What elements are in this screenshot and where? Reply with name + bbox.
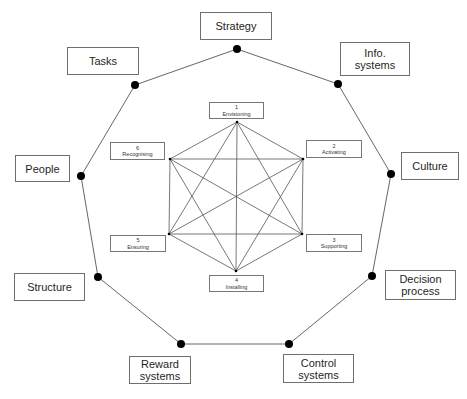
outer-ring-edge [81, 176, 98, 277]
inner-node-dot-icon [168, 233, 171, 236]
inner-role-edge [237, 122, 303, 159]
box-people: People [15, 155, 70, 182]
outer-node-dot-icon [387, 170, 395, 178]
box-activating: 2 Activating [306, 140, 362, 158]
outer-ring-edge [237, 49, 338, 84]
box-ensuring: 5 Ensuring [110, 235, 166, 252]
inner-node-dot-icon [301, 233, 304, 236]
inner-node-dot-icon [169, 158, 172, 161]
outer-ring-edge [338, 84, 391, 174]
outer-ring-edge [372, 174, 391, 276]
role-label: Recognising [122, 151, 152, 158]
box-info-systems: Info. systems [340, 42, 410, 76]
box-culture: Culture [401, 152, 459, 180]
box-supporting: 3 Supporting [306, 234, 362, 252]
box-installing: 4 Installing [209, 275, 264, 292]
box-recognising: 6 Recognising [110, 142, 165, 160]
inner-node-dot-icon [302, 158, 305, 161]
role-label: Installing [226, 284, 248, 291]
inner-node-dot-icon [236, 121, 239, 124]
outer-ring-edge [135, 49, 237, 85]
outer-node-dot-icon [368, 272, 376, 280]
box-control-systems: Control systems [283, 354, 354, 383]
box-decision-process: Decision process [385, 270, 456, 300]
inner-role-edge [236, 159, 303, 271]
box-structure: Structure [14, 273, 85, 301]
outer-ring-edge [98, 277, 181, 344]
outer-node-dot-icon [177, 340, 185, 348]
inner-role-edge [169, 159, 170, 234]
role-label: Activating [322, 149, 346, 156]
inner-node-dot-icon [235, 270, 238, 273]
outer-ring-edge [289, 276, 372, 344]
role-label: Ensuring [127, 244, 149, 251]
inner-role-edge [170, 159, 236, 271]
box-reward-systems: Reward systems [129, 356, 191, 384]
role-label: Supporting [321, 243, 348, 250]
inner-role-edge [302, 159, 303, 234]
inner-role-edge [170, 122, 237, 159]
outer-node-dot-icon [233, 45, 241, 53]
outer-ring-edge [81, 85, 135, 176]
box-strategy: Strategy [200, 12, 272, 40]
outer-node-dot-icon [334, 80, 342, 88]
box-tasks: Tasks [67, 47, 139, 75]
role-label: Envisioning [222, 111, 250, 118]
outer-node-dot-icon [285, 340, 293, 348]
outer-node-dot-icon [131, 81, 139, 89]
outer-node-dot-icon [94, 273, 102, 281]
box-envisioning: 1 Envisioning [209, 102, 264, 119]
inner-role-edge [169, 234, 236, 271]
organisational-elements-diagram: Strategy Info. systems Culture Decision … [0, 0, 467, 399]
inner-role-edge [236, 234, 302, 271]
outer-node-dot-icon [77, 172, 85, 180]
